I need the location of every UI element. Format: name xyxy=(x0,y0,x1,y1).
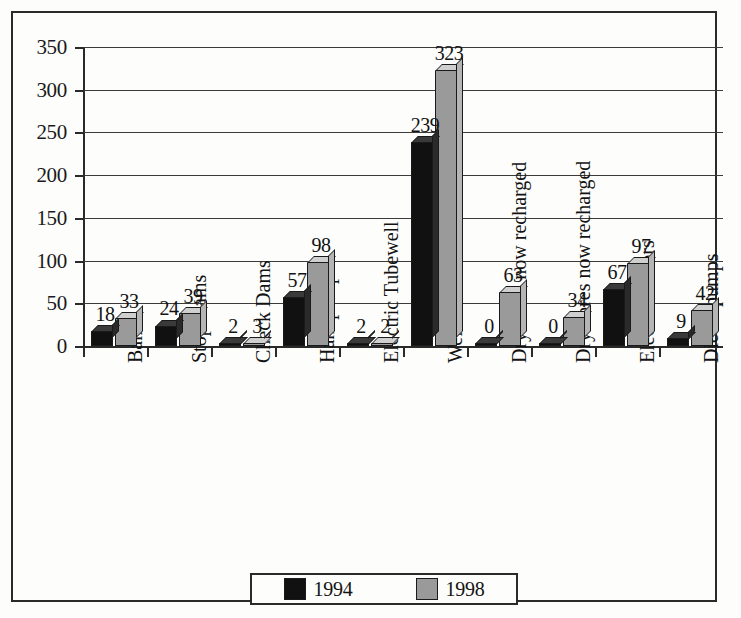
x-tick-mark xyxy=(275,348,277,357)
bar-side-face xyxy=(520,279,527,338)
value-label: 98 xyxy=(299,234,343,257)
value-label: 97 xyxy=(619,235,663,258)
x-tick-mark xyxy=(531,348,533,357)
value-label: 2 xyxy=(363,315,407,338)
y-tick-mark xyxy=(75,132,84,134)
value-label: 0 xyxy=(531,315,575,338)
value-label: 34 xyxy=(555,289,599,312)
bar-side-face xyxy=(624,276,631,338)
bar-1994-banks xyxy=(91,331,113,346)
y-tick-label: 50 xyxy=(21,291,67,316)
value-label: 57 xyxy=(275,269,319,292)
legend-label-1994: 1994 xyxy=(314,578,353,601)
bar-side-face xyxy=(432,129,439,338)
y-tick-label: 200 xyxy=(21,163,67,188)
value-label: 42 xyxy=(683,282,727,305)
bar-side-face xyxy=(304,284,311,338)
y-tick-mark xyxy=(75,218,84,220)
bar-1994-handpumps xyxy=(283,297,305,346)
x-tick-mark xyxy=(339,348,341,357)
x-tick-mark xyxy=(467,348,469,357)
bar-1994-stop-dams xyxy=(155,326,177,347)
y-tick-mark xyxy=(75,47,84,49)
bar-1994-check-dams xyxy=(219,343,241,346)
x-tick-mark xyxy=(403,348,405,357)
bar-1994-diesel-pumps xyxy=(667,338,689,346)
value-label: 9 xyxy=(659,310,703,333)
bar-1994-dry-wells-now-recharged xyxy=(475,343,497,346)
chart-page: 050100150200250300350 183324392357982223… xyxy=(0,0,741,618)
y-tick-label: 350 xyxy=(21,35,67,60)
gridline xyxy=(83,90,723,91)
y-tick-label: 0 xyxy=(21,334,67,359)
legend-entry-1994: 1994 xyxy=(284,578,353,601)
y-tick-label: 100 xyxy=(21,248,67,273)
legend-label-1998: 1998 xyxy=(446,578,485,601)
y-tick-label: 300 xyxy=(21,77,67,102)
value-label: 239 xyxy=(403,114,447,137)
bar-1994-electric-motors xyxy=(603,289,625,346)
bar-1998-check-dams xyxy=(243,343,265,346)
gridline xyxy=(83,218,723,219)
value-label: 63 xyxy=(491,264,535,287)
legend-swatch-1998 xyxy=(416,578,438,600)
bar-1994-wells xyxy=(411,142,433,346)
x-tick-mark xyxy=(595,348,597,357)
value-label: 323 xyxy=(427,42,471,65)
bar-1994-dry-bores-now-recharged xyxy=(539,343,561,346)
figure-border: 050100150200250300350 183324392357982223… xyxy=(11,11,717,602)
gridline xyxy=(83,47,723,48)
value-label: 0 xyxy=(467,315,511,338)
category-label-check-dams: Check Dams xyxy=(252,260,275,363)
legend-swatch-1994 xyxy=(284,578,306,600)
value-label: 67 xyxy=(595,261,639,284)
bar-side-face xyxy=(328,249,335,338)
y-tick-label: 250 xyxy=(21,120,67,145)
bar-side-face xyxy=(648,250,655,338)
plot-area: 050100150200250300350 183324392357982223… xyxy=(83,47,723,347)
y-tick-mark xyxy=(75,175,84,177)
legend-entry-1998: 1998 xyxy=(416,578,485,601)
gridline xyxy=(83,175,723,176)
x-tick-mark xyxy=(659,348,661,357)
x-tick-mark xyxy=(147,348,149,357)
y-tick-mark xyxy=(75,261,84,263)
x-tick-mark xyxy=(83,348,85,357)
bar-1998-electric-tubewell xyxy=(371,343,393,346)
value-label: 3 xyxy=(235,315,279,338)
y-tick-mark xyxy=(75,90,84,92)
value-label: 33 xyxy=(107,290,151,313)
y-tick-label: 150 xyxy=(21,205,67,230)
x-tick-mark xyxy=(211,348,213,357)
value-label: 39 xyxy=(171,285,215,308)
bar-1994-electric-tubewell xyxy=(347,343,369,346)
chart-legend: 1994 1998 xyxy=(250,573,518,605)
bar-side-face xyxy=(456,57,463,338)
